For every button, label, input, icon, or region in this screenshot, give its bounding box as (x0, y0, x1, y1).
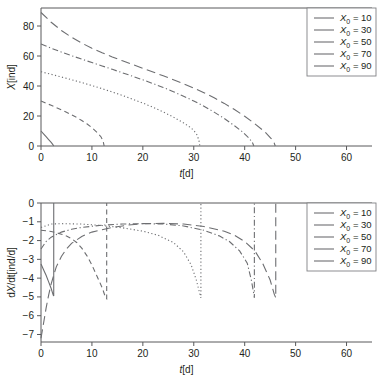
y-tick-label: 80 (23, 21, 35, 32)
svg-text:dX/dt[ind/d]: dX/dt[ind/d] (6, 247, 17, 298)
x-tick-label: 30 (188, 348, 200, 359)
x-tick-label: 10 (86, 348, 98, 359)
series-curve-x0-50 (41, 72, 200, 146)
x-tick-label: 40 (239, 348, 251, 359)
y-tick-label: 40 (23, 81, 35, 92)
series-curve-x0-50 (41, 203, 201, 298)
y-tick-label: −2 (23, 235, 35, 246)
y-tick-label: −5 (23, 291, 35, 302)
y-tick-label: −1 (23, 216, 35, 227)
y-axis-title: X[ind] (6, 64, 17, 91)
legend-label-30: X0 = 30 (339, 219, 372, 232)
y-tick-label: −3 (23, 254, 35, 265)
curves-group (41, 203, 276, 338)
legend: X0 = 10X0 = 30X0 = 50X0 = 70X0 = 90 (307, 8, 376, 76)
svg-text:X[ind]: X[ind] (6, 64, 17, 91)
x-tick-label: 0 (38, 348, 44, 359)
y-axis-title: dX/dt[ind/d] (6, 247, 17, 298)
figure-root: 0204060800102030405060t[d]X[ind]X0 = 10X… (0, 0, 386, 387)
y-tick-label: −4 (23, 273, 35, 284)
series-curve-x0-70 (41, 44, 254, 146)
legend: X0 = 10X0 = 30X0 = 50X0 = 70X0 = 90 (307, 203, 376, 271)
y-tick-label: −7 (23, 329, 35, 340)
curves-group (41, 13, 275, 147)
legend-label-10: X0 = 10 (339, 12, 372, 25)
y-tick-label: −6 (23, 310, 35, 321)
series-curve-x0-30 (41, 101, 104, 146)
chart-panel-top: 0204060800102030405060t[d]X[ind]X0 = 10X… (0, 0, 386, 195)
series-curve-x0-70 (41, 203, 254, 298)
chart-panel-bottom: 0−1−2−3−4−5−6−70102030405060t[d]dX/dt[in… (0, 190, 386, 387)
legend-label-50: X0 = 50 (339, 231, 372, 244)
legend-label-90: X0 = 90 (339, 255, 372, 268)
x-tick-label: 60 (341, 348, 353, 359)
x-tick-label: 20 (137, 348, 149, 359)
x-tick-label: 50 (290, 348, 302, 359)
y-tick-label: 0 (28, 141, 34, 152)
series-curve-x0-90 (41, 13, 275, 147)
y-tick-label: 60 (23, 51, 35, 62)
legend-label-90: X0 = 90 (339, 60, 372, 73)
page-edge-artifact (0, 366, 200, 386)
legend-label-10: X0 = 10 (339, 207, 372, 220)
x-tick-label: 20 (137, 152, 149, 163)
x-tick-label: 0 (38, 152, 44, 163)
x-tick-label: 30 (188, 152, 200, 163)
legend-label-70: X0 = 70 (339, 48, 372, 61)
x-tick-label: 10 (86, 152, 98, 163)
top-chart-svg: 0204060800102030405060t[d]X[ind]X0 = 10X… (0, 0, 386, 195)
bottom-chart-svg: 0−1−2−3−4−5−6−70102030405060t[d]dX/dt[in… (0, 190, 386, 387)
y-tick-label: 20 (23, 111, 35, 122)
x-tick-label: 60 (341, 152, 353, 163)
edge-artifact-marks (0, 373, 4, 382)
x-tick-label: 40 (239, 152, 251, 163)
y-tick-label: 0 (28, 198, 34, 209)
x-tick-label: 50 (290, 152, 302, 163)
x-axis-title: t[d] (180, 168, 194, 179)
legend-label-70: X0 = 70 (339, 243, 372, 256)
series-curve-x0-10 (41, 131, 54, 146)
legend-label-50: X0 = 50 (339, 36, 372, 49)
series-curve-x0-90 (41, 203, 276, 338)
legend-label-30: X0 = 30 (339, 24, 372, 37)
